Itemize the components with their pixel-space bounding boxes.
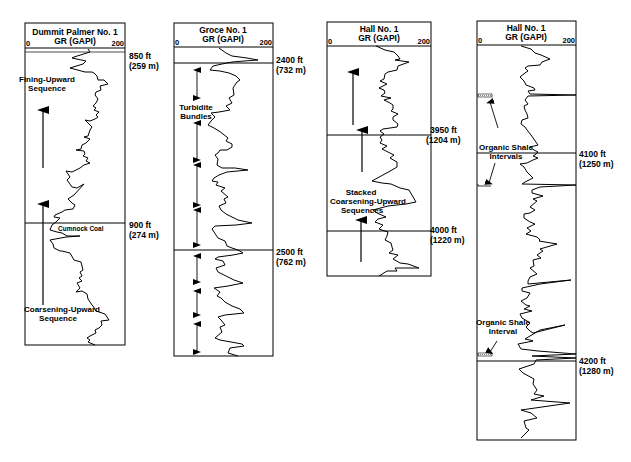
- depth-label-ft: 850 ft: [129, 51, 151, 61]
- panel-hall-1-lower: Hall No. 1 GR (GAPI) 0 200 4100 ft (1250…: [476, 21, 614, 440]
- annotation: Interval: [489, 327, 517, 336]
- panel-frame: [327, 22, 431, 276]
- gr-curve: [518, 46, 576, 438]
- annotation: Turbidite: [179, 103, 213, 112]
- tick-max: 200: [417, 37, 430, 46]
- tick-min: 0: [175, 38, 179, 47]
- tick-max: 200: [562, 36, 575, 45]
- depth-label-m: (1280 m): [579, 366, 614, 376]
- annotation-coal: Cumnock Coal: [58, 225, 104, 232]
- pointer-arrow: [490, 341, 497, 352]
- annotation: Bundles: [180, 112, 212, 121]
- depth-label-m: (259 m): [129, 61, 159, 71]
- pointer-arrow: [490, 102, 498, 128]
- depth-label-m: (1250 m): [579, 159, 614, 169]
- gr-curve: [208, 48, 258, 356]
- axis-label: GR (GAPI): [54, 36, 96, 46]
- tick-min: 0: [328, 37, 332, 46]
- depth-label-ft: 4100 ft: [579, 149, 606, 159]
- depth-label-m: (274 m): [129, 230, 159, 240]
- depth-label-ft: 2500 ft: [276, 247, 303, 257]
- depth-label-m: (1204 m): [426, 135, 461, 145]
- panel-dummit-palmer: Dummit Palmer No. 1 GR (GAPI) 0 200 850 …: [19, 23, 159, 345]
- axis-label: GR (GAPI): [202, 34, 244, 44]
- panel-groce: Groce No. 1 GR (GAPI) 0 200 2400 ft (732…: [174, 23, 306, 356]
- depth-label-m: (1220 m): [430, 235, 465, 245]
- annotation: Sequence: [28, 84, 66, 93]
- annotation: Coarsening-Upward: [330, 197, 406, 206]
- axis-label: GR (GAPI): [358, 33, 400, 43]
- depth-label-ft: 900 ft: [129, 220, 151, 230]
- axis-label: GR (GAPI): [505, 32, 547, 42]
- well-log-figure: Dummit Palmer No. 1 GR (GAPI) 0 200 850 …: [0, 0, 631, 462]
- annotation: Stacked: [346, 188, 377, 197]
- depth-label-ft: 2400 ft: [276, 55, 303, 65]
- panel-frame: [25, 23, 125, 345]
- tick-min: 0: [478, 36, 482, 45]
- annotation: Organic Shale: [479, 143, 533, 152]
- annotation: Fining-Upward: [19, 75, 75, 84]
- gr-curve: [50, 49, 109, 345]
- depth-label-ft: 4200 ft: [579, 356, 606, 366]
- annotation: Sequence: [39, 314, 77, 323]
- depth-label-ft: 4000 ft: [430, 225, 457, 235]
- panel-hall-1-upper: Hall No. 1 GR (GAPI) 0 200 3950 ft (1204…: [327, 22, 465, 276]
- tick-max: 200: [259, 38, 272, 47]
- gr-curve: [372, 46, 419, 276]
- annotation: Intervals: [490, 152, 523, 161]
- annotation: Coarsening-Upward: [24, 305, 100, 314]
- depth-label-m: (732 m): [276, 65, 306, 75]
- depth-label-ft: 3950 ft: [430, 125, 457, 135]
- annotation: Organic Shale: [476, 318, 530, 327]
- tick-min: 0: [26, 39, 30, 48]
- organic-shale-marker: [478, 184, 491, 186]
- tick-max: 200: [111, 39, 124, 48]
- panel-frame: [477, 21, 576, 440]
- pointer-arrow: [489, 163, 495, 183]
- annotation: Sequences: [341, 206, 384, 215]
- depth-label-m: (762 m): [276, 257, 306, 267]
